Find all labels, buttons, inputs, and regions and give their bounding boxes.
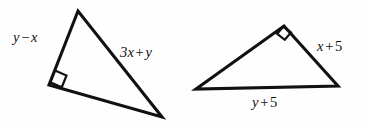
label-term-2: x — [31, 29, 38, 45]
label-term-1: x — [317, 38, 324, 54]
label-term-1: y — [13, 29, 20, 45]
label-operator: + — [134, 44, 145, 60]
left-triangle-leg-label: y−x — [13, 30, 38, 45]
right-triangle-leg-label: x+5 — [317, 39, 342, 54]
label-term-2: 5 — [270, 94, 277, 110]
label-operator: + — [259, 94, 270, 110]
label-term-2: 5 — [335, 38, 342, 54]
left-triangle-hypotenuse-label: 3x+y — [120, 45, 152, 60]
geometry-figure: y−x 3x+y x+5 y+5 — [0, 0, 365, 130]
right-triangle-outline — [196, 26, 338, 89]
label-term-2: y — [145, 44, 152, 60]
label-operator: + — [324, 38, 335, 54]
triangles-svg — [0, 0, 365, 130]
left-triangle-outline — [49, 11, 162, 117]
label-term-1: 3x — [120, 44, 134, 60]
label-operator: − — [20, 29, 31, 45]
right-triangle-base-label: y+5 — [252, 95, 277, 110]
label-term-1: y — [252, 94, 259, 110]
